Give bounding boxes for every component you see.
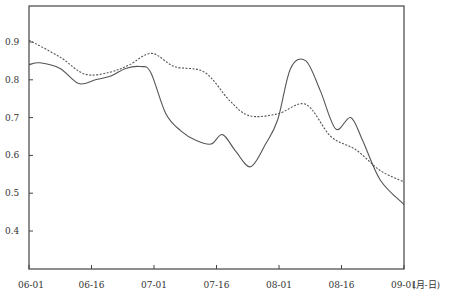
x-tick-label: 08-01 [266,280,292,290]
y-tick-label: 0.7 [5,113,20,123]
line-chart: 0.40.50.60.70.80.9 06-0106-1607-0107-160… [0,0,458,298]
x-axis-unit-label: (月-日) [412,280,440,290]
y-tick-label: 0.5 [5,188,20,198]
x-tick-label: 08-16 [329,280,355,290]
y-tick-label: 0.8 [5,75,20,85]
y-tick-label: 0.4 [5,226,20,236]
series-lines [29,40,404,204]
plot-frame [29,6,404,269]
x-tick-label: 07-16 [204,280,230,290]
y-tick-label: 0.9 [5,37,20,47]
x-tick-label: 06-16 [79,280,105,290]
x-tick-label: 06-01 [18,280,44,290]
dashed-series-line [29,40,404,182]
x-tick-label: 07-01 [141,280,167,290]
y-tick-label: 0.6 [5,150,20,160]
solid-series-line [29,59,404,205]
